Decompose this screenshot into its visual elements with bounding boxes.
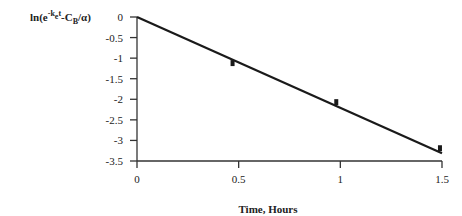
axes: 0-0.5-1-1.5-2-2.5-3-3.500.511.5 bbox=[106, 11, 450, 185]
data-series bbox=[137, 17, 442, 153]
y-tick-label: -0.5 bbox=[106, 32, 124, 44]
data-point-marker bbox=[231, 60, 235, 66]
y-tick-label: -1 bbox=[114, 52, 123, 64]
fit-line bbox=[137, 17, 442, 153]
y-tick-label: -1.5 bbox=[106, 73, 124, 85]
data-point-marker bbox=[334, 99, 338, 105]
y-tick-label: -3.5 bbox=[106, 155, 124, 167]
y-tick-label: -2.5 bbox=[106, 114, 124, 126]
x-axis-label: Time, Hours bbox=[0, 203, 462, 215]
x-tick-label: 0 bbox=[134, 173, 140, 185]
y-tick-label: -3 bbox=[114, 134, 124, 146]
y-tick-label: -2 bbox=[114, 93, 123, 105]
data-point-marker bbox=[438, 145, 442, 151]
y-tick-label: 0 bbox=[118, 11, 124, 23]
x-tick-label: 1 bbox=[338, 173, 344, 185]
line-chart: 0-0.5-1-1.5-2-2.5-3-3.500.511.5 bbox=[0, 0, 462, 216]
x-tick-label: 1.5 bbox=[435, 173, 449, 185]
x-tick-label: 0.5 bbox=[232, 173, 246, 185]
